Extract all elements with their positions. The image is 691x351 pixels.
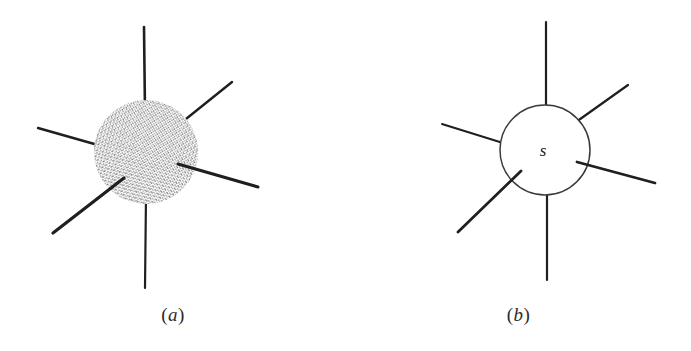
caption-b-letter: b xyxy=(514,304,524,325)
figure-container: (a) s (b) xyxy=(0,0,691,351)
caption-b-open: ( xyxy=(507,304,514,325)
panel-b: s (b) xyxy=(346,0,691,351)
bond-left xyxy=(442,124,503,143)
node-label-s: s xyxy=(540,141,547,160)
panel-a: (a) xyxy=(0,0,346,351)
diagram-b-svg: s xyxy=(346,0,691,351)
caption-b-close: ) xyxy=(524,304,531,325)
caption-b: (b) xyxy=(346,304,691,326)
caption-a-open: ( xyxy=(161,304,168,325)
caption-a: (a) xyxy=(0,304,346,326)
bond-right xyxy=(577,162,655,183)
bond-upper-right xyxy=(576,85,628,122)
caption-a-letter: a xyxy=(168,304,178,325)
bond-lower-left xyxy=(458,171,521,232)
diagram-a-svg xyxy=(0,0,346,351)
caption-a-close: ) xyxy=(178,304,185,325)
